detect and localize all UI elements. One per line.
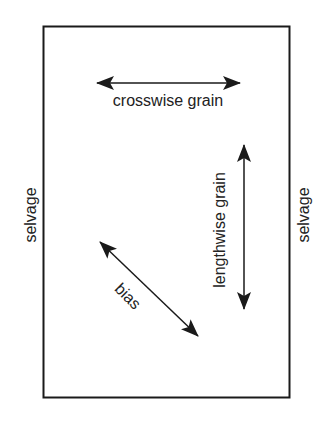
lengthwise-grain-label: lengthwise grain — [211, 172, 228, 288]
bias-label: bias — [111, 280, 144, 313]
selvage-left-label: selvage — [22, 187, 39, 242]
selvage-right-label: selvage — [295, 187, 312, 242]
fabric-grain-diagram: crosswise grain lengthwise grain bias se… — [0, 0, 330, 421]
fabric-rectangle — [44, 27, 290, 398]
crosswise-grain-label: crosswise grain — [113, 92, 223, 109]
